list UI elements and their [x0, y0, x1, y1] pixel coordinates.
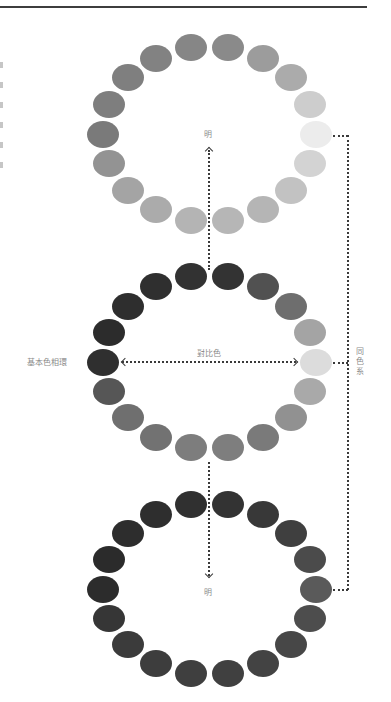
label-light-top: 明 [204, 128, 212, 139]
clipped-char [0, 62, 3, 68]
color-swatch [175, 263, 207, 290]
color-swatch [112, 404, 144, 431]
color-swatch [212, 660, 244, 687]
color-swatch [275, 404, 307, 431]
top-rule [0, 6, 367, 8]
color-swatch [212, 491, 244, 518]
color-swatch [300, 121, 332, 148]
clipped-char [0, 122, 3, 128]
color-swatch [212, 34, 244, 61]
color-swatch [175, 34, 207, 61]
color-swatch [275, 293, 307, 320]
color-swatch [175, 434, 207, 461]
color-swatch [212, 434, 244, 461]
light-color-ring [0, 0, 391, 702]
dotted-line-horizontal [122, 361, 296, 363]
dotted-line-vertical-lower [208, 462, 210, 576]
clipped-char [0, 162, 3, 168]
color-swatch [112, 631, 144, 658]
vertical-label-char: 系 [355, 367, 365, 377]
color-swatch [247, 424, 279, 451]
color-swatch [212, 263, 244, 290]
label-contrast: 對比色 [197, 347, 221, 358]
label-same-color-family: 同色系 [355, 347, 365, 377]
color-swatch [140, 45, 172, 72]
arrow-down-icon [205, 570, 213, 578]
color-swatch [93, 546, 125, 573]
vertical-label-char: 同 [355, 347, 365, 357]
color-swatch [275, 520, 307, 547]
color-swatch [140, 273, 172, 300]
color-swatch [87, 121, 119, 148]
color-swatch [300, 349, 332, 376]
color-swatch [247, 196, 279, 223]
color-swatch [87, 349, 119, 376]
color-swatch [175, 491, 207, 518]
color-swatch [112, 177, 144, 204]
color-swatch [112, 293, 144, 320]
color-swatch [294, 150, 326, 177]
color-swatch [93, 605, 125, 632]
color-swatch [93, 150, 125, 177]
color-swatch [112, 520, 144, 547]
color-swatch [93, 378, 125, 405]
color-swatch [275, 177, 307, 204]
color-swatch [247, 45, 279, 72]
vertical-label-char: 色 [355, 357, 365, 367]
color-swatch [247, 273, 279, 300]
color-swatch [275, 64, 307, 91]
color-swatch [294, 91, 326, 118]
arrow-right-icon [290, 358, 298, 366]
label-basic-hue-ring: 基本色相環 [27, 356, 67, 367]
clipped-char [0, 142, 3, 148]
dark-color-ring [0, 0, 391, 702]
color-swatch [294, 378, 326, 405]
label-light-bottom: 明 [204, 586, 212, 597]
clipped-char [0, 102, 3, 108]
bracket-vertical-line [347, 135, 349, 590]
color-swatch [294, 605, 326, 632]
color-swatch [140, 196, 172, 223]
clipped-side-text [0, 62, 6, 182]
color-swatch [87, 576, 119, 603]
color-swatch [275, 631, 307, 658]
dotted-line-vertical-upper [208, 150, 210, 270]
bracket-top-tick [333, 135, 348, 137]
color-swatch [140, 650, 172, 677]
color-swatch [112, 64, 144, 91]
arrow-left-icon [121, 358, 129, 366]
clipped-char [0, 82, 3, 88]
color-swatch [247, 650, 279, 677]
color-swatch [140, 424, 172, 451]
color-swatch [93, 91, 125, 118]
color-swatch [175, 660, 207, 687]
color-swatch [247, 501, 279, 528]
color-swatch [175, 207, 207, 234]
color-swatch [93, 319, 125, 346]
bracket-bottom-tick [333, 589, 348, 591]
color-swatch [212, 207, 244, 234]
bracket-middle-tick [333, 362, 348, 364]
color-swatch [294, 546, 326, 573]
basic-hue-ring [0, 0, 391, 702]
color-swatch [140, 501, 172, 528]
color-swatch [300, 576, 332, 603]
color-swatch [294, 319, 326, 346]
